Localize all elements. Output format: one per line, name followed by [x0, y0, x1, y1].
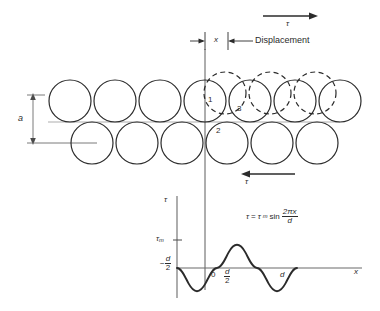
- equation-fraction: 2πx d: [282, 208, 298, 226]
- x-tick-zero: 0: [211, 271, 215, 279]
- x-axis-label: x: [354, 268, 358, 276]
- equation-tau-m: τ: [258, 213, 261, 221]
- atom-label-1: 1: [208, 96, 212, 104]
- equation-tau-m-subscript: m: [263, 214, 268, 220]
- displacement-label: Displacement: [255, 36, 310, 45]
- equation-equals: =: [251, 213, 256, 221]
- shear-stress-diagram: τ x Displacement a 1 2 3 τ τ τ = τm sin …: [0, 0, 380, 311]
- x-tick-d-over-2: d 2: [224, 268, 230, 286]
- equation-sin: sin: [269, 213, 279, 221]
- shear-stress-equation: τ = τm sin 2πx d: [246, 208, 298, 226]
- bottom-shear-arrow: [241, 170, 295, 177]
- top-shear-stress-label: τ: [286, 20, 289, 28]
- lattice-spacing-label: a: [18, 114, 23, 123]
- diagram-canvas: [0, 0, 380, 311]
- equation-denominator: d: [282, 217, 298, 225]
- atom-label-2: 2: [216, 127, 220, 135]
- upper-atom-row: [49, 80, 361, 122]
- y-tick-label-tau-m: τm: [156, 235, 164, 244]
- atom-label-3: 3: [237, 105, 241, 113]
- top-shear-arrow: [263, 12, 318, 19]
- displacement-dimension: [190, 32, 253, 50]
- y-axis-label: τ: [164, 196, 167, 204]
- x-tick-minus-d-over-2: − d 2: [160, 255, 171, 273]
- lower-atom-row: [71, 122, 338, 164]
- displacement-symbol-label: x: [214, 36, 218, 44]
- x-tick-d: d: [280, 271, 284, 279]
- bottom-shear-stress-label: τ: [245, 178, 248, 186]
- equation-lhs: τ: [246, 213, 249, 221]
